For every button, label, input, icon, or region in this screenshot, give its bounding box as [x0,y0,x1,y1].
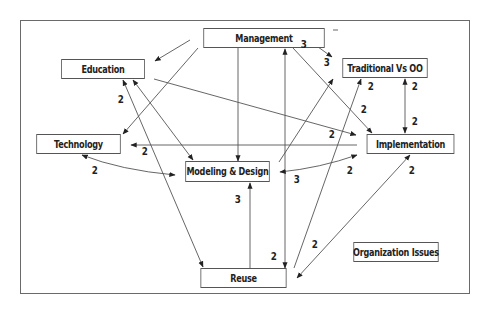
node-technology: Technology [36,134,120,154]
node-label: Management [235,32,292,45]
weight-label: 2 [361,103,367,116]
node-reuse: Reuse [200,268,286,288]
node-label: Technology [54,138,103,151]
weight-label: 2 [347,164,353,177]
edge-education-implementation [154,79,356,135]
node-label: Reuse [230,272,257,285]
weight-label: 2 [142,145,148,158]
weight-label: 2 [368,80,374,93]
node-label: Traditional Vs OO [347,62,422,75]
edge-management-education [155,40,190,61]
weight-label: 2 [412,115,418,128]
weight-label: 2 [409,164,415,177]
weight-label: 2 [118,93,124,106]
weight-label: 2 [92,164,98,177]
weight-label: 2 [312,238,318,251]
weight-label: 2 [329,128,335,141]
edge-modeling-implementation [280,155,357,172]
node-traditional-vs-oo: Traditional Vs OO [342,58,427,78]
node-label: Education [81,63,124,76]
weight-label: 3 [294,173,300,186]
weight-label: 2 [271,250,277,263]
weight-label: 3 [301,38,307,51]
node-label: Modeling & Design [186,165,268,178]
node-implementation: Implementation [367,134,455,154]
weight-label: 3 [235,193,241,206]
organization-issues-diagram: Management Education Traditional Vs OO T… [0,0,493,309]
node-label: Implementation [376,138,445,151]
node-education: Education [61,59,145,79]
legend-label: Organization Issues [353,246,439,259]
legend-organization-issues: Organization Issues [353,242,438,262]
weight-label: 3 [324,56,330,69]
weight-label: 2 [412,80,418,93]
node-modeling-design: Modeling & Design [185,161,269,182]
edge-modeling-traditional [279,79,333,162]
